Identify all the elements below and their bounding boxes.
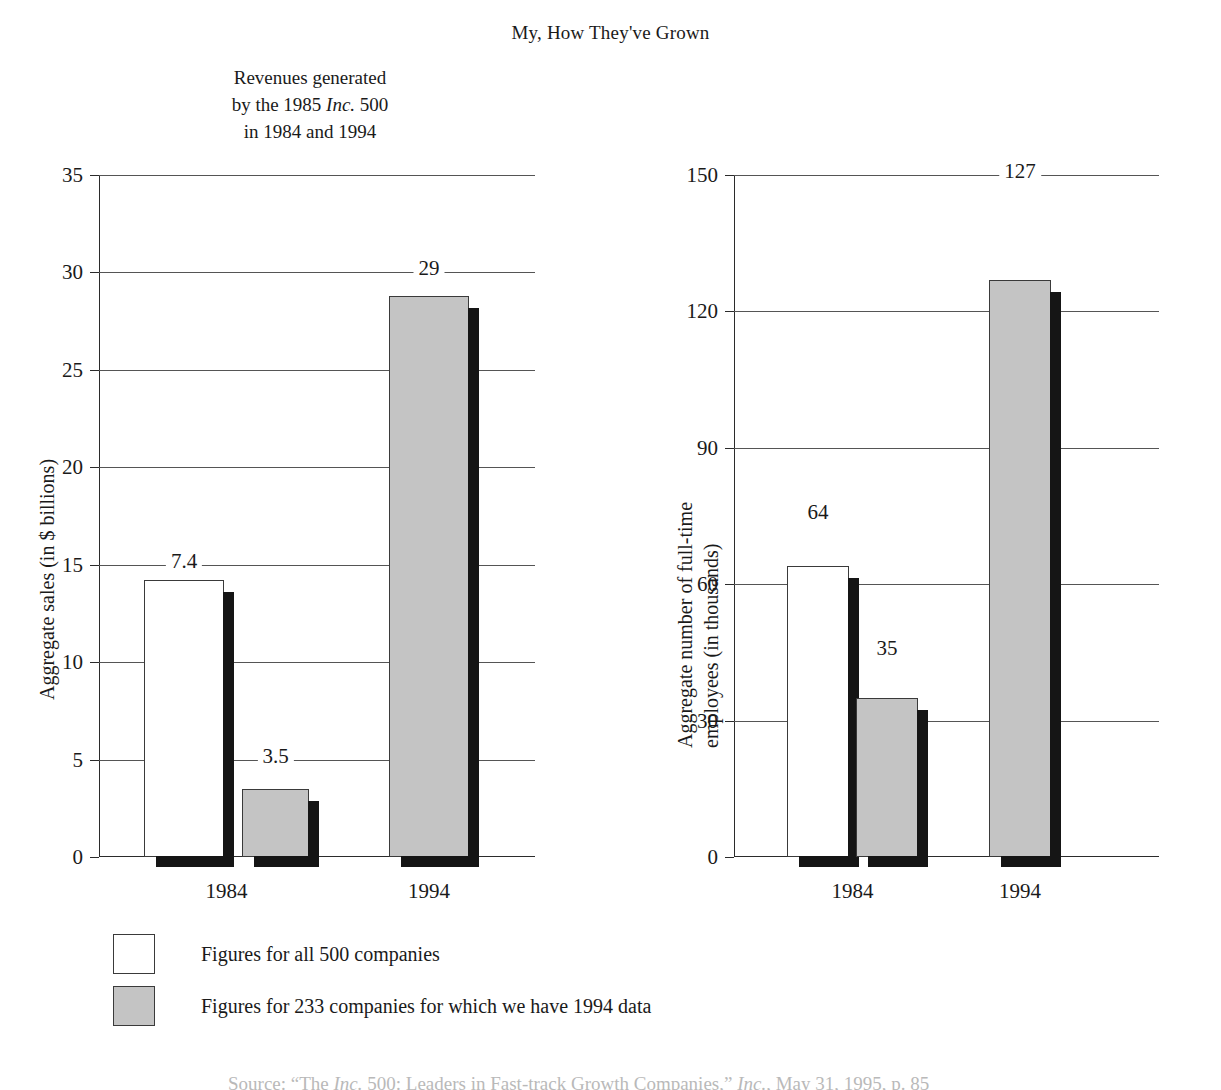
y-axis-tick	[725, 721, 734, 722]
y-axis-tick-label: 5	[73, 747, 84, 772]
legend-label: Figures for all 500 companies	[201, 943, 440, 966]
y-axis-tick-label: 0	[708, 845, 719, 870]
bar-revenues-1984-233-subset	[242, 789, 309, 857]
bar-value-label: 29	[414, 256, 445, 281]
x-axis-tick-label-1984: 1984	[206, 879, 248, 904]
y-axis-tick	[90, 662, 99, 663]
revenues-plot-area: 051015202530357.43.529	[99, 175, 535, 857]
y-axis-tick-label: 20	[62, 455, 83, 480]
bar-revenues-1994-233-subset	[389, 296, 469, 857]
revenues-title-line-3: in 1984 and 1994	[100, 118, 520, 145]
x-axis-tick-label-1994: 1994	[408, 879, 450, 904]
revenues-chart: Revenues generated by the 1985 Inc. 500 …	[0, 0, 620, 1090]
bar-revenues-1984-all-500	[144, 580, 224, 857]
bar-shadow-bottom	[401, 856, 479, 867]
y-axis-tick	[725, 175, 734, 176]
bar-value-label: 64	[803, 500, 834, 525]
y-axis-tick	[725, 857, 734, 858]
bar-jobs-1994-233-subset	[989, 280, 1051, 857]
gridline	[99, 175, 535, 176]
y-axis-tick-label: 150	[687, 163, 719, 188]
bar-jobs-1984-all-500	[787, 566, 849, 857]
bar-value-label: 127	[999, 159, 1041, 184]
jobs-y-axis-title-line-2: employees (in thousands)	[698, 328, 724, 748]
y-axis-tick	[90, 467, 99, 468]
gridline	[99, 272, 535, 273]
bar-shadow-right	[1050, 292, 1061, 867]
legend-item-grey: Figures for 233 companies for which we h…	[113, 980, 651, 1032]
revenues-y-axis-line	[99, 175, 100, 857]
y-axis-tick	[725, 584, 734, 585]
jobs-plot-area: 03060901201506435127	[734, 175, 1159, 857]
bar-shadow-bottom	[254, 856, 319, 867]
y-axis-tick	[90, 760, 99, 761]
y-axis-tick	[725, 311, 734, 312]
y-axis-tick-label: 35	[62, 163, 83, 188]
legend-item-white: Figures for all 500 companies	[113, 928, 651, 980]
bar-shadow-bottom	[799, 856, 859, 867]
y-axis-tick	[90, 857, 99, 858]
y-axis-tick	[90, 175, 99, 176]
y-axis-tick	[725, 448, 734, 449]
gridline	[734, 448, 1159, 449]
x-axis-tick-label-1984: 1984	[832, 879, 874, 904]
y-axis-tick	[90, 370, 99, 371]
bar-shadow-bottom	[868, 856, 928, 867]
revenues-y-axis-title: Aggregate sales (in $ billions)	[36, 459, 59, 700]
jobs-y-axis-line	[734, 175, 735, 857]
gridline	[734, 311, 1159, 312]
legend-swatch-grey	[113, 986, 155, 1026]
legend-label: Figures for 233 companies for which we h…	[201, 995, 651, 1018]
x-axis-tick-label-1994: 1994	[999, 879, 1041, 904]
bar-jobs-1984-233-subset	[856, 698, 918, 857]
y-axis-tick-label: 25	[62, 357, 83, 382]
bar-value-label: 35	[872, 636, 903, 661]
bar-shadow-right	[468, 308, 479, 867]
bar-value-label: 3.5	[257, 744, 293, 769]
y-axis-tick	[90, 272, 99, 273]
bar-shadow-bottom	[156, 856, 234, 867]
gridline	[734, 175, 1159, 176]
bar-shadow-bottom	[1001, 856, 1061, 867]
y-axis-tick-label: 30	[62, 260, 83, 285]
jobs-y-axis-title: Aggregate number of full-time employees …	[672, 328, 724, 748]
y-axis-tick-label: 15	[62, 552, 83, 577]
chart-legend: Figures for all 500 companiesFigures for…	[113, 928, 651, 1032]
revenues-title-line-2: by the 1985 Inc. 500	[100, 91, 520, 118]
source-caption: Source: “The Inc. 500: Leaders in Fast-t…	[228, 1073, 1028, 1090]
y-axis-tick	[90, 565, 99, 566]
revenues-chart-title: Revenues generated by the 1985 Inc. 500 …	[100, 64, 520, 145]
bar-value-label: 7.4	[166, 549, 202, 574]
legend-swatch-white	[113, 934, 155, 974]
bar-shadow-right	[917, 710, 928, 867]
revenues-title-line-1: Revenues generated	[100, 64, 520, 91]
y-axis-tick-label: 10	[62, 650, 83, 675]
y-axis-tick-label: 0	[73, 845, 84, 870]
jobs-y-axis-title-line-1: Aggregate number of full-time	[672, 328, 698, 748]
bar-shadow-right	[223, 592, 234, 867]
y-axis-tick-label: 120	[687, 299, 719, 324]
